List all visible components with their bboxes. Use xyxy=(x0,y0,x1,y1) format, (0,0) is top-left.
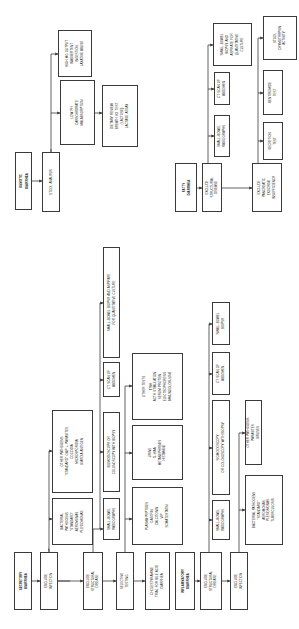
label: Laxative abuse xyxy=(80,41,85,66)
fatty-bentiromide-test-box: Bentiromide test xyxy=(263,70,283,115)
secretory-sigmoidoscopy-box: Sigmoidoscopy or colonoscopy with biopsy xyxy=(103,412,120,492)
label: Giardia antigen xyxy=(80,438,85,465)
inflammatory-diarrhea-box: Inflammatory diarrhea xyxy=(175,552,195,610)
label: diarrhea xyxy=(24,173,29,189)
label: disease xyxy=(95,575,100,588)
label: Stool analysis xyxy=(49,169,54,195)
label: Immunoglobulins xyxy=(168,372,173,402)
label: Somatostatin xyxy=(165,505,170,528)
label: diarrhea xyxy=(160,573,165,589)
label: Histamine xyxy=(162,444,167,460)
fatty-secretion-test-box: Secretion test xyxy=(263,122,283,160)
secretory-other-tests-box: Other tests TSH ACTH stimulation Serum p… xyxy=(132,353,183,420)
diarrhea-workup-diagram: Secretory diarrhea Exclude infection Bac… xyxy=(0,0,299,629)
label: culture xyxy=(240,38,245,52)
label: colonoscopy with biopsy xyxy=(112,430,117,475)
fatty-stool-chymotrypsin-box: Stool chymotrypsin activity xyxy=(263,16,297,60)
label: test xyxy=(273,137,278,145)
secretory-exclude-structural-box: Exclude structural disease xyxy=(83,552,103,610)
secretory-small-bowel-radiographs-box: Small-bowel radiographs xyxy=(103,498,120,540)
inflammatory-exclude-infection-box: Exclude infection xyxy=(230,552,248,610)
fatty-exclude-pancreatic-box: Exclude pancreatic exocrine insufficienc… xyxy=(252,163,282,212)
secretory-other-pathogens-box: Other pathogens "Standard" O&P + parasit… xyxy=(52,410,93,493)
label: Plesiomonas xyxy=(80,511,85,533)
secretory-exclude-infection-box: Exclude infection xyxy=(40,552,58,610)
label: test xyxy=(273,89,278,97)
label: abdomen xyxy=(112,372,117,387)
label: infection xyxy=(49,573,54,589)
secretory-urine-box: Urine 5-HIAA Metanephrines Histamine xyxy=(132,425,183,480)
label: radiographs xyxy=(222,125,227,147)
secretory-ct-scan-box: CT scan of abdomen xyxy=(103,362,120,397)
osmotic-dietary-review-box: Dietary review Breath H2 test (lactose) … xyxy=(102,85,138,147)
label: insufficiency xyxy=(272,176,277,199)
inflammatory-bacterial-pathogens-box: Bacterial pathogens "Standard" Aeromonas… xyxy=(245,475,283,545)
inflammatory-sigmoidoscopy-box: Sigmoidoscopy or colonoscopy with biopsy xyxy=(212,400,230,495)
label: abdomen xyxy=(222,81,227,96)
inflammatory-small-bowel-biopsy-box: Small-bowel biopsy xyxy=(212,302,230,345)
inflammatory-other-pathogens-box: Other pathogens Parasites Viruses xyxy=(245,400,262,465)
label: malabsorption xyxy=(80,100,85,126)
inflammatory-exclude-structural-box: Exclude structural disease xyxy=(200,552,222,610)
inflammatory-ct-scan-box: CT scan of abdomen xyxy=(212,352,230,395)
label: Tuberculosis xyxy=(271,498,276,521)
secretory-bacterial-pathogens-box: Bacterial pathogens "Standard" Aeromonas… xyxy=(52,498,93,545)
label: infection xyxy=(239,573,244,589)
osmotic-stool-analysis-box: Stool analysis xyxy=(42,152,60,212)
secretory-selective-testing-box: Selective testing xyxy=(116,552,134,610)
secretory-cholestyramine-box: Cholestyramine trial for bile acid diarr… xyxy=(145,552,170,610)
label: activity xyxy=(282,31,287,45)
secretory-diarrhea-box: Secretory diarrhea xyxy=(14,552,32,610)
osmotic-low-ph-box: Low pH Carbohydrate malabsorption xyxy=(60,80,95,145)
osmotic-high-mg-box: High Mg output Inadvertent ingestion Lax… xyxy=(58,30,92,77)
label: radiographs xyxy=(221,509,226,531)
inflammatory-small-bowel-radiographs-box: Small-bowel radiographs xyxy=(212,500,230,540)
label: diarrhea xyxy=(23,573,28,589)
fatty-exclude-structural-box: Exclude structural disease xyxy=(202,163,222,212)
label: disease xyxy=(213,575,218,588)
fatty-small-bowel-biopsy-box: Small-bowel biopsy and aspirate for quan… xyxy=(213,23,252,66)
label: for quantitative culture xyxy=(112,281,117,325)
secretory-plasma-peptides-box: Plasma peptides Gastrin Calcitonin VIP S… xyxy=(132,487,183,545)
label: Viruses xyxy=(256,426,261,439)
secretory-small-bowel-biopsy-box: Small-bowel biopsy and aspirate for quan… xyxy=(103,247,120,358)
fatty-diarrhea-box: Fatty diarrhea xyxy=(175,163,197,212)
fatty-ct-scan-box: CT scan of abdomen xyxy=(214,72,230,105)
label: biopsy xyxy=(221,318,226,329)
label: Lactase assay xyxy=(125,104,130,128)
label: diarrhea xyxy=(186,180,191,196)
fatty-small-bowel-radiographs-box: Small-bowel radiographs xyxy=(214,115,230,157)
label: disease xyxy=(214,181,219,194)
label: testing xyxy=(125,575,130,588)
label: diarrhea xyxy=(185,573,190,589)
label: or colonoscopy with biopsy xyxy=(221,422,226,472)
label: radiographs xyxy=(112,508,117,530)
osmotic-diarrhea-box: Osmotic diarrhea xyxy=(15,152,32,210)
label: abdomen xyxy=(221,366,226,381)
